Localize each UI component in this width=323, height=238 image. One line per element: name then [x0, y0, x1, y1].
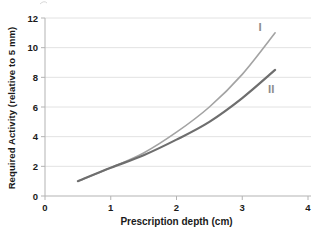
- y-tick-label: 4: [33, 131, 39, 142]
- x-tick-label: 0: [42, 202, 47, 213]
- chart-canvas: 02468101201234III: [0, 0, 323, 238]
- y-tick-label: 12: [27, 13, 38, 24]
- x-axis-title: Prescription depth (cm): [45, 216, 308, 227]
- x-tick-label: 1: [108, 202, 114, 213]
- x-tick-label: 4: [305, 202, 311, 213]
- y-tick-label: 2: [33, 161, 38, 172]
- y-tick-label: 6: [33, 102, 38, 113]
- series-label-I: I: [258, 21, 261, 33]
- y-tick-label: 0: [33, 191, 38, 202]
- series-curve-II: [78, 70, 275, 181]
- y-axis-title: Required Activity (relative to 5 mm): [6, 27, 17, 190]
- series-label-II: II: [268, 83, 274, 95]
- x-tick-label: 3: [240, 202, 245, 213]
- y-tick-label: 10: [27, 42, 38, 53]
- x-tick-label: 2: [174, 202, 179, 213]
- cropped-text-artifact: [40, 2, 47, 4]
- activity-depth-line-chart: 02468101201234III Required Activity (rel…: [0, 0, 323, 238]
- y-tick-label: 8: [33, 72, 38, 83]
